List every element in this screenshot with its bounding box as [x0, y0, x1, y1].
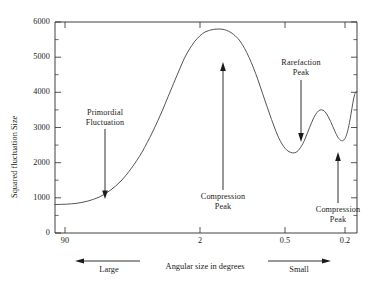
x-tick-label-2: 2 — [187, 236, 213, 246]
annotation-compression2-line2: Peak — [297, 215, 370, 225]
annotation-primordial-line2: Fluctuation — [66, 118, 144, 128]
annotation-rarefaction-line2: Peak — [263, 68, 339, 78]
x-tick-label-0.2: 0.2 — [331, 236, 359, 246]
x-tick-label-90: 90 — [52, 236, 78, 246]
y-tick-label-4000: 4000 — [16, 87, 50, 97]
y-tick-label-6000: 6000 — [16, 17, 50, 27]
annotation-primordial-line1: Primordial — [66, 108, 144, 118]
x-axis-major-ticks — [65, 227, 345, 233]
x-axis-top-ticks — [65, 22, 345, 28]
x-tick-label-0.5: 0.5 — [271, 236, 299, 246]
scale-label-large: Large — [85, 265, 133, 274]
annotation-compression2-line1: Compression — [297, 205, 370, 215]
large-direction-arrow — [75, 258, 140, 263]
x-axis-title: Angular size in degrees — [150, 262, 260, 271]
annotation-compression1-line1: Compression — [182, 192, 264, 202]
y-tick-label-1000: 1000 — [16, 193, 50, 203]
annotation-compression1-line2: Peak — [182, 202, 264, 212]
y-tick-label-0: 0 — [16, 228, 50, 238]
y-axis-major-ticks — [55, 22, 61, 233]
y-tick-label-5000: 5000 — [16, 52, 50, 62]
compression-peak-2-arrow — [335, 152, 341, 203]
cmb-power-spectrum-figure: 6000 5000 4000 3000 2000 1000 0 90 2 0.5… — [0, 0, 370, 287]
rarefaction-peak-arrow — [298, 80, 304, 142]
y-tick-label-3000: 3000 — [16, 123, 50, 133]
annotation-compression-peak-2: Compression Peak — [297, 205, 370, 225]
y-axis-right-ticks — [351, 22, 357, 215]
scale-label-small: Small — [275, 265, 323, 274]
annotation-rarefaction-peak: Rarefaction Peak — [263, 58, 339, 78]
annotation-primordial-fluctuation: Primordial Fluctuation — [66, 108, 144, 128]
primordial-fluctuation-arrow — [102, 129, 108, 199]
y-tick-label-2000: 2000 — [16, 158, 50, 168]
annotation-compression-peak-1: Compression Peak — [182, 192, 264, 212]
annotation-rarefaction-line1: Rarefaction — [263, 58, 339, 68]
small-direction-arrow — [268, 258, 331, 263]
compression-peak-1-arrow — [220, 62, 226, 190]
y-axis-title: Squared fluctuation Size — [10, 116, 19, 198]
